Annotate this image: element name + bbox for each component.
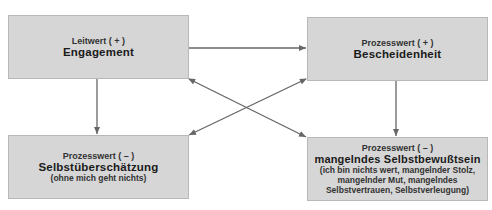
box-title: mangelndes Selbstbewußtsein: [314, 153, 480, 165]
box-selbstueberschaetzung: Prozesswert ( – ) Selbstüberschätzung (o…: [8, 135, 189, 199]
box-subtitle: Prozesswert ( – ): [63, 151, 135, 161]
box-bescheidenheit: Prozesswert ( + ) Bescheidenheit: [307, 17, 488, 81]
box-note: (ohne mich geht nichts): [51, 173, 147, 183]
box-note: (ich bin nichts wert, mangelnder Stolz, …: [314, 165, 481, 195]
box-title: Bescheidenheit: [354, 48, 442, 60]
box-engagement: Leitwert ( + ) Engagement: [8, 15, 189, 79]
box-subtitle: Prozesswert ( – ): [362, 143, 434, 153]
box-title: Engagement: [63, 46, 134, 58]
box-subtitle: Prozesswert ( + ): [362, 38, 434, 48]
box-mangelndes-selbstbewusstsein: Prozesswert ( – ) mangelndes Selbstbewuß…: [307, 137, 488, 201]
box-subtitle: Leitwert ( + ): [72, 36, 125, 46]
box-title: Selbstüberschätzung: [38, 161, 158, 173]
